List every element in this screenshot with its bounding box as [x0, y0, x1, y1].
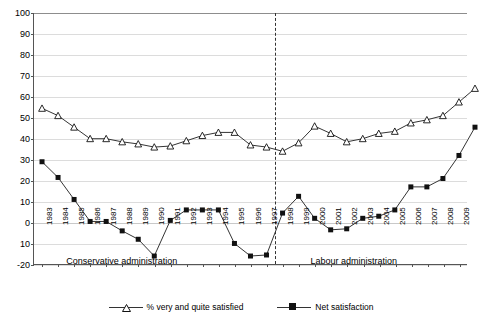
x-axis-tick-label: 1990: [158, 207, 166, 225]
y-axis-tick-label: 100: [15, 9, 30, 18]
data-point-marker-triangle: [311, 123, 318, 129]
x-axis-tick-mark: [42, 264, 43, 267]
legend-item-satisfied: % very and quite satisfied: [109, 302, 244, 312]
x-axis-tick-label: 1987: [110, 207, 118, 225]
x-axis-tick-label: 2009: [463, 207, 471, 225]
data-point-marker-triangle: [391, 128, 398, 134]
legend-label-net-satisfaction: Net satisfaction: [315, 303, 373, 312]
x-axis-tick-label: 1985: [78, 207, 86, 225]
open-triangle-icon: [109, 302, 143, 312]
x-axis-tick-mark: [235, 264, 236, 267]
x-axis-tick-label: 2004: [383, 207, 391, 225]
x-axis-tick-mark: [299, 264, 300, 267]
y-axis-tick-label: 50: [20, 114, 30, 123]
x-axis-tick-mark: [187, 264, 188, 267]
chart-legend: % very and quite satisfied Net satisfact…: [0, 302, 482, 312]
data-point-marker-square: [104, 219, 109, 224]
data-point-marker-square: [408, 184, 413, 189]
plot-inner: 100908070605040302010010-20 198319841985…: [34, 13, 467, 264]
x-axis-tick-label: 2002: [351, 207, 359, 225]
x-axis-tick-label: 1994: [222, 207, 230, 225]
x-axis-tick-mark: [58, 264, 59, 267]
data-point-marker-square: [424, 184, 429, 189]
data-point-marker-square: [312, 216, 317, 221]
y-axis-tick-label: 70: [20, 72, 30, 81]
data-point-marker-square: [392, 207, 397, 212]
y-axis-tick-label: 40: [20, 135, 30, 144]
x-axis-tick-label: 1988: [126, 207, 134, 225]
x-axis-tick-label: 1997: [271, 207, 279, 225]
y-axis-tick-label: -20: [17, 261, 30, 270]
data-point-marker-triangle: [327, 130, 334, 136]
data-point-marker-square: [328, 227, 333, 232]
y-axis-tick-label: 90: [20, 30, 30, 39]
data-point-marker-square: [40, 159, 45, 164]
y-axis-tick-label: 20: [20, 177, 30, 186]
y-axis-tick-label: 10: [20, 198, 30, 207]
x-axis-tick-mark: [219, 264, 220, 267]
data-point-marker-square: [376, 214, 381, 219]
data-point-marker-square: [120, 228, 125, 233]
x-axis-tick-label: 1992: [190, 207, 198, 225]
data-point-marker-square: [296, 194, 301, 199]
x-axis-tick-label: 1998: [287, 207, 295, 225]
data-point-marker-square: [88, 219, 93, 224]
data-point-marker-square: [280, 211, 285, 216]
x-axis-tick-label: 2003: [367, 207, 375, 225]
x-axis-tick-mark: [444, 264, 445, 267]
x-axis-tick-mark: [267, 264, 268, 267]
x-axis-tick-mark: [412, 264, 413, 267]
data-point-marker-square: [344, 226, 349, 231]
annotation-right: Labour administration: [310, 256, 397, 266]
x-axis-tick-label: 2006: [415, 207, 423, 225]
triangle-glyph: [122, 304, 131, 312]
data-point-marker-square: [136, 237, 141, 242]
data-point-marker-square: [264, 252, 269, 257]
data-point-marker-square: [472, 125, 477, 130]
x-axis-tick-label: 1996: [255, 207, 263, 225]
x-axis-tick-label: 2007: [431, 207, 439, 225]
x-axis-tick-label: 1984: [62, 207, 70, 225]
x-axis-tick-mark: [251, 264, 252, 267]
x-axis-tick-label: 1986: [94, 207, 102, 225]
x-axis-tick-label: 2005: [399, 207, 407, 225]
series-group: [34, 13, 467, 264]
data-point-marker-square: [456, 153, 461, 158]
data-point-marker-square: [360, 216, 365, 221]
plot-area: 100908070605040302010010-20 198319841985…: [33, 13, 467, 265]
legend-item-net-satisfaction: Net satisfaction: [277, 302, 373, 312]
x-axis-tick-label: 1989: [142, 207, 150, 225]
x-axis-tick-mark: [460, 264, 461, 267]
x-axis-tick-label: 2000: [319, 207, 327, 225]
data-point-marker-square: [248, 254, 253, 259]
y-axis-tick-mark: [31, 265, 34, 266]
x-axis-tick-label: 1993: [206, 207, 214, 225]
data-point-marker-triangle: [55, 112, 62, 118]
data-point-marker-square: [232, 241, 237, 246]
data-point-marker-square: [72, 197, 77, 202]
y-axis-tick-label: 0: [25, 219, 30, 228]
y-axis-tick-label: 60: [20, 93, 30, 102]
chart-container: 100908070605040302010010-20 198319841985…: [0, 0, 482, 323]
x-axis-tick-label: 1991: [174, 207, 182, 225]
x-axis-tick-mark: [203, 264, 204, 267]
x-axis-tick-label: 2001: [335, 207, 343, 225]
data-point-marker-square: [440, 176, 445, 181]
y-axis-tick-label: 10: [20, 240, 30, 249]
legend-label-satisfied: % very and quite satisfied: [147, 303, 244, 312]
data-point-marker-square: [56, 175, 61, 180]
data-point-marker-triangle: [359, 135, 366, 141]
x-axis-tick-label: 1983: [46, 207, 54, 225]
x-axis-tick-label: 2008: [447, 207, 455, 225]
filled-square-icon: [277, 302, 311, 312]
y-axis-tick-label: 30: [20, 156, 30, 165]
x-axis-tick-mark: [283, 264, 284, 267]
x-axis-tick-mark: [428, 264, 429, 267]
data-point-marker-triangle: [71, 124, 78, 130]
data-point-marker-triangle: [183, 137, 190, 143]
data-point-marker-triangle: [39, 105, 46, 111]
square-glyph: [289, 303, 296, 310]
x-axis-tick-label: 1995: [238, 207, 246, 225]
y-axis-tick-label: 80: [20, 51, 30, 60]
data-point-marker-triangle: [472, 85, 479, 91]
